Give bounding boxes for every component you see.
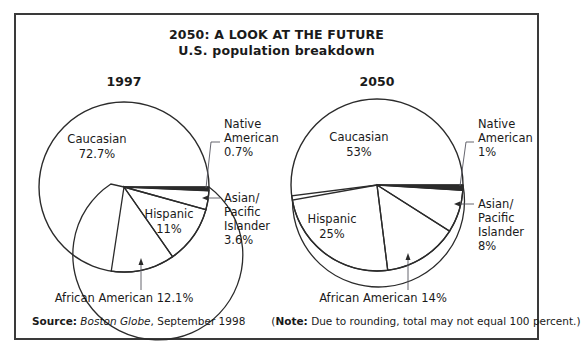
pie-right-arrowhead-african-american bbox=[406, 253, 411, 260]
source-label: Source: bbox=[32, 315, 77, 327]
pie-left-label-caucasian: Caucasian bbox=[67, 132, 126, 146]
pie-left-label-asian-l3: Islander bbox=[224, 219, 270, 233]
pie-right-label-asian-l1: Asian/ bbox=[478, 197, 513, 211]
pie-right-leader-native-american bbox=[460, 142, 474, 186]
pie-left-label-hispanic: Hispanic bbox=[145, 207, 194, 221]
pie-right-slice-african-american bbox=[377, 185, 450, 270]
pie-right-label-hispanic: Hispanic bbox=[308, 212, 357, 226]
pie-left-arrowhead-asian-pacific bbox=[202, 195, 208, 200]
note-text: Due to rounding, total may not equal 100… bbox=[308, 315, 581, 327]
pie-right-year-label: 2050 bbox=[360, 74, 395, 89]
pie-charts-area: 1997 Caucasian 72.7% Hispanic 11% bbox=[16, 15, 537, 338]
pie-right-label-asian-l3: Islander bbox=[478, 225, 524, 239]
pie-chart-1997: 1997 Caucasian 72.7% Hispanic 11% bbox=[39, 74, 279, 340]
pie-charts-svg: 1997 Caucasian 72.7% Hispanic 11% bbox=[2, 2, 561, 357]
pie-left-value-caucasian: 72.7% bbox=[79, 147, 116, 161]
pie-chart-2050: 2050 Caucasian 53% Hispanic 25% bbox=[291, 74, 533, 305]
pie-left-label-native-american-l2: American bbox=[224, 131, 279, 145]
pie-right-arrowhead-asian-pacific bbox=[454, 201, 460, 206]
pie-right-value-asian: 8% bbox=[478, 239, 496, 253]
pie-right-slice-asian-pacific bbox=[377, 185, 463, 231]
source-publication: Boston Globe bbox=[80, 315, 150, 327]
pie-left-year-label: 1997 bbox=[107, 74, 142, 89]
note-label: Note: bbox=[275, 315, 307, 327]
pie-right-label-african-american: African American 14% bbox=[319, 291, 447, 305]
infographic-frame: 2050: A LOOK AT THE FUTURE U.S. populati… bbox=[14, 13, 539, 340]
pie-right-value-native-american: 1% bbox=[478, 145, 496, 159]
figure-footer: Source: Boston Globe, September 1998(Not… bbox=[32, 315, 527, 327]
pie-left-value-hispanic: 11% bbox=[156, 222, 182, 236]
pie-left-label-african-american: African American 12.1% bbox=[55, 291, 194, 305]
pie-left-value-native-american: 0.7% bbox=[224, 145, 253, 159]
pie-right-label-asian-l2: Pacific bbox=[478, 211, 515, 225]
pie-left-label-asian-l1: Asian/ bbox=[224, 191, 259, 205]
pie-left-label-native-american-l1: Native bbox=[224, 117, 261, 131]
pie-right-value-caucasian: 53% bbox=[346, 145, 372, 159]
pie-right-value-hispanic: 25% bbox=[319, 227, 345, 241]
source-date: , September 1998 bbox=[151, 315, 246, 327]
pie-left-arrowhead-african-american bbox=[139, 258, 144, 265]
pie-left-label-asian-l2: Pacific bbox=[224, 205, 261, 219]
pie-left-value-asian: 3.6% bbox=[224, 233, 253, 247]
pie-right-label-native-american-l2: American bbox=[478, 131, 533, 145]
pie-right-label-native-american-l1: Native bbox=[478, 117, 515, 131]
pie-right-label-caucasian: Caucasian bbox=[329, 130, 388, 144]
